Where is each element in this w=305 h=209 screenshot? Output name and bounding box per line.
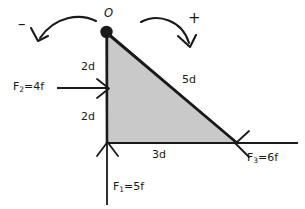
force-f1-subscript: 1 xyxy=(119,185,124,194)
diagram-canvas: O – + 2d 2d 5d 3d F2=4f F1=5f F3=6f xyxy=(0,0,305,209)
diagram-svg xyxy=(0,0,305,209)
force-f2-subscript: 2 xyxy=(19,85,24,94)
dimension-label-3d: 3d xyxy=(152,149,166,160)
dimension-label-5d: 5d xyxy=(182,74,196,85)
force-f3-subscript: 3 xyxy=(253,156,258,165)
dimension-label-2d-lower: 2d xyxy=(81,111,95,122)
moment-positive-sign-label: + xyxy=(188,11,201,26)
force-f2-label: F2=4f xyxy=(13,81,44,92)
moment-negative-sign-label: – xyxy=(18,17,26,32)
force-f3-label: F3=6f xyxy=(247,152,278,163)
dimension-label-2d-upper: 2d xyxy=(81,61,95,72)
force-f1-label: F1=5f xyxy=(113,181,144,192)
origin-label: O xyxy=(104,8,113,20)
force-f1-value: =5f xyxy=(124,180,144,193)
moment-negative-arc-icon xyxy=(40,17,96,38)
force-f3-value: =6f xyxy=(258,151,278,164)
origin-point-dot xyxy=(100,26,112,38)
force-f2-value: =4f xyxy=(24,80,44,93)
